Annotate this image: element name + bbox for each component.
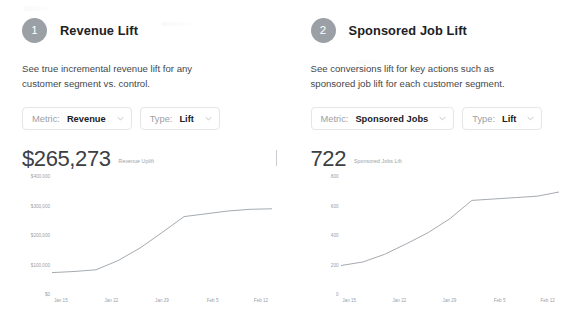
x-tick-label: Feb 5 <box>494 298 506 303</box>
panel-sponsored-job-lift: 2 Sponsored Job Lift See conversions lif… <box>287 0 573 318</box>
line-series-revenue <box>52 178 272 290</box>
y-tick-label: $300,000 <box>31 203 50 208</box>
y-tick-label: $0 <box>45 292 50 297</box>
x-tick-label: Feb 12 <box>254 298 268 303</box>
type-dropdown-label: Type: <box>472 114 495 124</box>
type-dropdown[interactable]: Type: Lift <box>140 107 220 130</box>
filter-controls: Metric: Revenue Type: Lift <box>22 107 269 130</box>
x-tick-label: Jan 29 <box>443 298 457 303</box>
metric-label: Revenue Uplift <box>119 158 154 164</box>
x-tick-label: Jan 22 <box>104 298 118 303</box>
metric-dropdown-label: Metric: <box>321 114 349 124</box>
step-badge-1: 1 <box>22 18 47 43</box>
panel-header: 1 Revenue Lift <box>22 16 269 44</box>
metric-dropdown[interactable]: Metric: Sponsored Jobs <box>311 107 455 130</box>
y-tick-label: 0 <box>336 292 339 297</box>
y-tick-label: 400 <box>331 233 339 238</box>
x-tick-label: Jan 22 <box>392 298 406 303</box>
x-tick-label: Jan 29 <box>155 298 169 303</box>
metric-dropdown-value: Revenue <box>67 114 106 124</box>
panel-description: See true incremental revenue lift for an… <box>22 62 237 91</box>
step-badge-2: 2 <box>311 18 336 43</box>
y-tick-label: 800 <box>331 174 339 179</box>
y-tick-label: $200,000 <box>31 233 50 238</box>
plot-area <box>52 178 272 290</box>
type-dropdown-value: Lift <box>179 114 193 124</box>
metric-dropdown-label: Metric: <box>32 114 60 124</box>
filter-controls: Metric: Sponsored Jobs Type: Lift <box>311 107 556 130</box>
x-tick-label: Jan 15 <box>342 298 356 303</box>
metric-value: $265,273 <box>22 146 111 172</box>
x-tick-label: Feb 5 <box>207 298 219 303</box>
chevron-down-icon[interactable] <box>117 115 124 122</box>
x-axis-labels: Jan 15 Jan 22 Jan 29 Feb 5 Feb 12 <box>52 298 272 308</box>
description-line-1: See conversions lift for key actions suc… <box>311 63 494 74</box>
lift-dashboard: 1 Revenue Lift See true incremental reve… <box>0 0 573 318</box>
line-path <box>341 192 559 266</box>
type-dropdown-value: Lift <box>502 114 516 124</box>
description-line-2: sponsored job lift for each customer seg… <box>311 77 526 92</box>
chevron-down-icon[interactable] <box>439 115 446 122</box>
type-dropdown-label: Type: <box>150 114 173 124</box>
metric-value: 722 <box>311 146 347 172</box>
panel-title: Sponsored Job Lift <box>349 23 467 38</box>
panel-title: Revenue Lift <box>60 23 138 38</box>
metric-label: Sponsored Jobs Lift <box>354 158 402 164</box>
metric-summary: $265,273 Revenue Uplift <box>22 146 269 172</box>
plot-area <box>341 178 559 290</box>
chevron-down-icon[interactable] <box>527 115 534 122</box>
y-axis-labels: $400,000 $300,000 $200,000 $100,000 $0 <box>22 176 50 294</box>
x-axis-labels: Jan 15 Jan 22 Jan 29 Feb 5 Feb 12 <box>341 298 559 308</box>
description-line-2: customer segment vs. control. <box>22 77 237 92</box>
panel-revenue-lift: 1 Revenue Lift See true incremental reve… <box>0 0 287 318</box>
line-series-sponsored-jobs <box>341 178 559 290</box>
type-dropdown[interactable]: Type: Lift <box>462 107 542 130</box>
y-tick-label: $100,000 <box>31 262 50 267</box>
y-tick-label: 600 <box>331 203 339 208</box>
x-tick-label: Jan 15 <box>54 298 68 303</box>
sponsored-job-lift-chart: 800 600 400 200 0 Jan 15 Jan 22 Jan 29 F… <box>311 176 559 316</box>
x-tick-label: Feb 12 <box>540 298 554 303</box>
metric-summary: 722 Sponsored Jobs Lift <box>311 146 556 172</box>
y-axis-labels: 800 600 400 200 0 <box>311 176 339 294</box>
line-path <box>52 209 272 273</box>
metric-dropdown-value: Sponsored Jobs <box>355 114 428 124</box>
panel-divider <box>276 150 277 166</box>
chevron-down-icon[interactable] <box>205 115 212 122</box>
panel-description: See conversions lift for key actions suc… <box>311 62 526 91</box>
description-line-1: See true incremental revenue lift for an… <box>22 63 192 74</box>
y-tick-label: 200 <box>331 262 339 267</box>
y-tick-label: $400,000 <box>31 174 50 179</box>
revenue-lift-chart: $400,000 $300,000 $200,000 $100,000 $0 J… <box>22 176 272 316</box>
panel-header: 2 Sponsored Job Lift <box>311 16 556 44</box>
metric-dropdown[interactable]: Metric: Revenue <box>22 107 132 130</box>
